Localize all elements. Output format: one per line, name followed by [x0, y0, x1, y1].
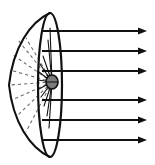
parabolic-reflector-figure [0, 0, 155, 165]
diagram-canvas [0, 0, 155, 165]
